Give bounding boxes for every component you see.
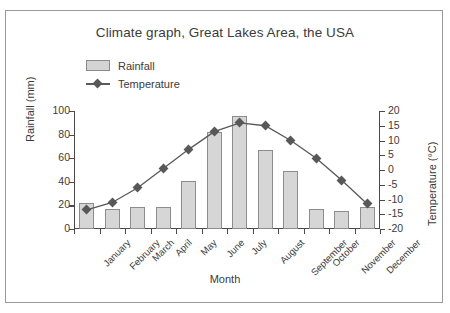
- right-tick-label: -5: [388, 178, 428, 190]
- legend-item-temperature: Temperature: [86, 76, 180, 91]
- x-axis-title: Month: [6, 273, 444, 285]
- right-tick-label: 5: [388, 148, 428, 160]
- right-tick-label: -10: [388, 193, 428, 205]
- bottom-tick: [278, 229, 279, 234]
- bottom-tick: [74, 229, 75, 234]
- bottom-tick: [125, 229, 126, 234]
- bottom-tick: [329, 229, 330, 234]
- rainfall-swatch-icon: [86, 60, 110, 71]
- chart-title: Climate graph, Great Lakes Area, the USA: [6, 25, 444, 40]
- left-axis-title: Rainfall (mm): [24, 77, 36, 142]
- left-tick-label: 20: [30, 198, 70, 210]
- temperature-line: [74, 111, 380, 229]
- right-axis-title: Temperature (°C): [426, 142, 438, 226]
- chart-legend: Rainfall Temperature: [86, 58, 180, 94]
- right-tick-label: 10: [388, 134, 428, 146]
- right-tick-label: -15: [388, 207, 428, 219]
- bottom-tick: [253, 229, 254, 234]
- right-tick: [380, 155, 385, 156]
- month-label: June: [224, 237, 246, 259]
- bottom-tick: [304, 229, 305, 234]
- right-tick: [380, 185, 385, 186]
- right-tick: [380, 111, 385, 112]
- plot-area: 020406080100 -20-15-10-505101520 January…: [74, 111, 380, 229]
- bottom-tick: [151, 229, 152, 234]
- right-tick: [380, 170, 385, 171]
- right-tick-label: 0: [388, 163, 428, 175]
- right-tick-label: 20: [388, 104, 428, 116]
- temperature-diamond-icon: [93, 79, 103, 89]
- bottom-tick: [355, 229, 356, 234]
- right-tick: [380, 200, 385, 201]
- legend-item-rainfall: Rainfall: [86, 58, 180, 73]
- month-label: April: [173, 237, 194, 258]
- month-label: July: [249, 237, 269, 257]
- bottom-tick: [202, 229, 203, 234]
- climate-graph-figure: Climate graph, Great Lakes Area, the USA…: [5, 10, 443, 303]
- right-tick: [380, 141, 385, 142]
- left-tick-label: 0: [30, 222, 70, 234]
- right-tick: [380, 214, 385, 215]
- left-tick-label: 60: [30, 151, 70, 163]
- month-label: May: [198, 237, 218, 257]
- bottom-tick: [227, 229, 228, 234]
- bottom-tick: [100, 229, 101, 234]
- left-tick-label: 40: [30, 175, 70, 187]
- bottom-tick: [380, 229, 381, 234]
- left-tick-label: 100: [30, 104, 70, 116]
- legend-label-rainfall: Rainfall: [118, 60, 155, 72]
- bottom-tick: [176, 229, 177, 234]
- right-tick-label: 15: [388, 119, 428, 131]
- right-tick-label: -20: [388, 222, 428, 234]
- right-tick: [380, 126, 385, 127]
- left-tick-label: 80: [30, 128, 70, 140]
- temperature-line-icon: [86, 78, 110, 89]
- month-label: August: [278, 237, 307, 266]
- legend-label-temperature: Temperature: [118, 78, 180, 90]
